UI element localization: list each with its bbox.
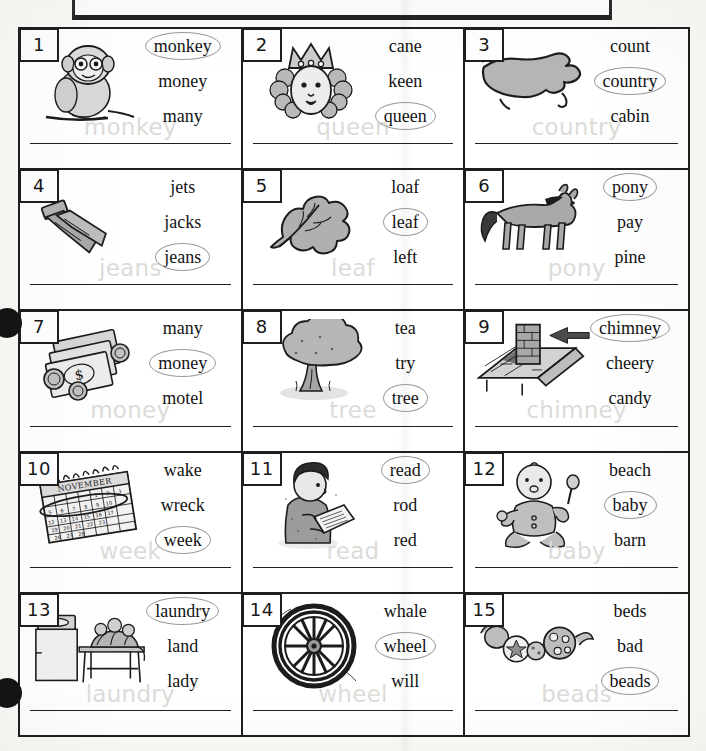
writing-line[interactable] [253, 567, 454, 568]
worksheet-item-13: 13 laundrylandladylaundry [20, 594, 243, 735]
word-choice-list: whalewheelwill [353, 598, 457, 703]
worksheet-item-7: 7 $ manymoneymotelmoney [20, 311, 243, 452]
word-choice-list: readrodred [353, 457, 457, 562]
word-choice[interactable]: count [601, 33, 659, 59]
word-choice-list: loafleafleft [353, 174, 457, 279]
word-choice-list: wakewreckweek [131, 457, 235, 562]
word-choice[interactable]: lady [158, 668, 207, 694]
word-choice-circled[interactable]: read [381, 457, 430, 483]
word-choice-list: monkeymoneymany [131, 33, 235, 138]
word-choice[interactable]: loaf [382, 174, 428, 200]
item-number-badge: 5 [243, 170, 282, 203]
word-choice-circled[interactable]: baby [604, 492, 657, 518]
word-choice-list: laundrylandlady [131, 598, 235, 703]
writing-line[interactable] [253, 710, 454, 711]
word-choice[interactable]: left [384, 244, 426, 270]
word-choice[interactable]: cabin [602, 103, 659, 129]
writing-line[interactable] [475, 426, 678, 427]
word-choice[interactable]: red [385, 527, 426, 553]
writing-line[interactable] [253, 143, 454, 144]
worksheet-item-14: 14 whalewheelwillwheel [243, 594, 466, 735]
item-number-badge: 13 [20, 594, 59, 627]
item-number-badge: 7 [20, 311, 59, 344]
svg-text:10: 10 [105, 499, 112, 506]
writing-line[interactable] [475, 284, 678, 285]
word-choice[interactable]: will [382, 668, 428, 694]
word-choice[interactable]: try [386, 350, 424, 376]
word-choice[interactable]: many [154, 103, 212, 129]
writing-line[interactable] [253, 284, 454, 285]
writing-line[interactable] [30, 710, 231, 711]
word-choice-list: canekeenqueen [353, 33, 457, 138]
worksheet-item-5: 5 loafleafleftleaf [243, 170, 466, 311]
worksheet-item-1: 1 monkeymoneymanymonkey [20, 29, 243, 170]
word-choice-circled[interactable]: pony [603, 174, 657, 200]
item-number-badge: 11 [243, 453, 282, 486]
word-choice-circled[interactable]: laundry [146, 598, 219, 624]
word-choice-circled[interactable]: week [155, 527, 211, 553]
word-choice-list: teatrytree [353, 315, 457, 420]
worksheet-item-6: 6 ponypaypinepony [465, 170, 688, 311]
worksheet-item-10: 10 NOVEMBER 123 567 8910 121314 151617 1… [20, 453, 243, 594]
svg-text:20: 20 [63, 524, 70, 531]
word-choice[interactable]: money [149, 68, 216, 94]
svg-text:23: 23 [98, 518, 105, 525]
word-choice[interactable]: candy [600, 385, 661, 411]
writing-line[interactable] [30, 143, 231, 144]
word-choice[interactable]: barn [605, 527, 655, 553]
word-choice[interactable]: pine [606, 244, 655, 270]
worksheet-item-12: 12 beachbabybarnbaby [465, 453, 688, 594]
word-choice-circled[interactable]: wheel [375, 633, 436, 659]
word-choice[interactable]: whale [375, 598, 436, 624]
word-choice-circled[interactable]: beads [601, 668, 660, 694]
word-choice-list: chimneycheerycandy [578, 315, 682, 420]
word-choice-circled[interactable]: country [594, 68, 667, 94]
word-choice[interactable]: cheery [597, 350, 663, 376]
writing-line[interactable] [30, 426, 231, 427]
item-number-badge: 10 [20, 453, 59, 486]
word-choice[interactable]: bad [608, 633, 652, 659]
word-choice[interactable]: pay [608, 209, 652, 235]
word-choice[interactable]: motel [153, 385, 212, 411]
svg-text:12: 12 [48, 518, 55, 525]
word-choice[interactable]: beds [605, 598, 656, 624]
writing-line[interactable] [475, 710, 678, 711]
word-choice[interactable]: cane [380, 33, 431, 59]
word-choice-list: countcountrycabin [578, 33, 682, 138]
svg-text:28: 28 [78, 530, 85, 537]
word-choice-circled[interactable]: chimney [590, 315, 670, 341]
word-choice[interactable]: land [158, 633, 207, 659]
worksheet-item-3: 3 countcountrycabincountry [465, 29, 688, 170]
writing-line[interactable] [253, 426, 454, 427]
writing-line[interactable] [475, 567, 678, 568]
word-choice[interactable]: wreck [152, 492, 214, 518]
word-choice-list: beachbabybarn [578, 457, 682, 562]
writing-line[interactable] [30, 284, 231, 285]
item-number-badge: 14 [243, 594, 282, 627]
word-choice-circled[interactable]: jeans [155, 244, 210, 270]
word-choice-list: jetsjacksjeans [131, 174, 235, 279]
word-choice-list: bedsbadbeads [578, 598, 682, 703]
word-choice[interactable]: tea [386, 315, 425, 341]
worksheet-item-4: 4 jetsjacksjeansjeans [20, 170, 243, 311]
worksheet-item-2: 2 canekeenqueenqueen [243, 29, 466, 170]
word-choice-circled[interactable]: monkey [145, 33, 221, 59]
word-choice[interactable]: keen [379, 68, 431, 94]
word-choice[interactable]: many [154, 315, 212, 341]
word-choice[interactable]: wake [155, 457, 211, 483]
word-choice[interactable]: jets [161, 174, 204, 200]
word-choice[interactable]: jacks [155, 209, 210, 235]
item-number-badge: 15 [465, 594, 504, 627]
item-number-badge: 4 [20, 170, 59, 203]
word-choice-circled[interactable]: money [149, 350, 216, 376]
item-number-badge: 1 [20, 29, 59, 62]
word-choice[interactable]: rod [384, 492, 426, 518]
writing-line[interactable] [30, 567, 231, 568]
writing-line[interactable] [475, 143, 678, 144]
word-choice-circled[interactable]: tree [383, 385, 428, 411]
worksheet-header-box [72, 0, 612, 20]
word-choice-circled[interactable]: queen [375, 103, 436, 129]
svg-text:17: 17 [107, 509, 114, 516]
word-choice[interactable]: beach [600, 457, 660, 483]
word-choice-circled[interactable]: leaf [383, 209, 428, 235]
